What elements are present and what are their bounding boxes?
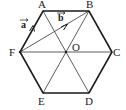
- label-E: E: [38, 95, 45, 107]
- label-D: D: [85, 95, 93, 107]
- label-B: B: [86, 0, 93, 10]
- hexagon-diagram: A B C D E F O a b: [0, 0, 126, 110]
- vector-a-label: a: [21, 19, 26, 30]
- label-A: A: [38, 0, 46, 10]
- point-F-dot: [19, 51, 21, 53]
- label-O: O: [72, 41, 80, 53]
- label-F: F: [9, 46, 15, 58]
- vector-b-arrowhead-icon: [61, 24, 68, 30]
- vector-b-label: b: [58, 12, 64, 23]
- center-point-O: [65, 51, 67, 53]
- label-C: C: [113, 46, 120, 58]
